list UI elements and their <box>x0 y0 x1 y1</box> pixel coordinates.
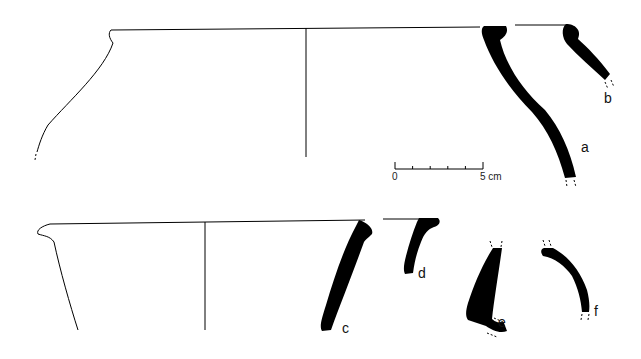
sherd-b-break <box>611 80 614 87</box>
sherd-a-section <box>482 26 576 178</box>
sherd-a-break <box>566 180 567 187</box>
vessel-a-break-line <box>35 154 36 160</box>
sherd-b-section <box>563 24 610 80</box>
scale-start-label: 0 <box>392 171 398 182</box>
label-d: d <box>418 265 426 281</box>
sherd-f: f <box>541 240 598 320</box>
vessel-c-profile: c <box>38 220 373 336</box>
vessel-a-profile: a <box>35 26 589 187</box>
vessel-c-rim-line <box>50 220 365 224</box>
sherd-a-break <box>574 180 576 187</box>
label-c: c <box>342 320 349 336</box>
scale-bar: 0 5 cm <box>392 162 502 182</box>
sherd-d: d <box>383 218 440 281</box>
sherd-b-break <box>605 82 608 89</box>
sherd-e-break <box>501 241 502 247</box>
sherd-e-break <box>490 241 492 247</box>
sherd-e-break <box>487 333 497 337</box>
label-f: f <box>594 303 598 319</box>
sherd-f-break <box>581 314 582 320</box>
sherd-c-section <box>321 220 373 331</box>
label-a: a <box>581 139 589 155</box>
sherd-b: b <box>515 24 614 106</box>
pottery-drawing: a b 0 5 cm c d e <box>0 0 641 359</box>
sherd-e: e <box>466 241 507 337</box>
sherd-f-section <box>541 248 589 312</box>
sherd-f-break <box>549 240 551 246</box>
vessel-c-exterior-outline <box>38 224 78 330</box>
sherd-f-break <box>543 240 545 246</box>
label-e: e <box>498 314 506 330</box>
scale-end-label: 5 cm <box>480 171 502 182</box>
vessel-a-rim-line <box>111 27 480 30</box>
vessel-a-exterior-outline <box>37 30 113 152</box>
sherd-f-break <box>588 314 589 320</box>
label-b: b <box>604 90 612 106</box>
